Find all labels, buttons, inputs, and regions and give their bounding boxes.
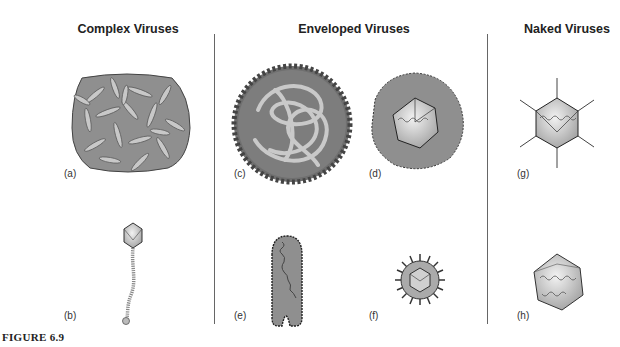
virus-h-illustration: [534, 254, 583, 310]
virus-b-illustration: [123, 223, 143, 325]
figure-caption: FIGURE 6.9: [2, 331, 64, 343]
panel-label-c: (c): [234, 168, 246, 179]
panel-label-d: (d): [369, 168, 381, 179]
panel-label-f: (f): [369, 310, 378, 321]
virus-e-illustration: [272, 236, 302, 326]
panel-label-g: (g): [517, 168, 529, 179]
virus-c-illustration: [234, 66, 350, 182]
panel-label-e: (e): [234, 310, 246, 321]
virus-g-illustration: [520, 78, 594, 168]
virus-f-illustration: [395, 254, 445, 305]
panel-label-h: (h): [517, 310, 529, 321]
virus-d-illustration: [372, 73, 463, 169]
virus-a-illustration: [72, 74, 190, 172]
panel-label-a: (a): [64, 168, 76, 179]
panel-label-b: (b): [64, 310, 76, 321]
